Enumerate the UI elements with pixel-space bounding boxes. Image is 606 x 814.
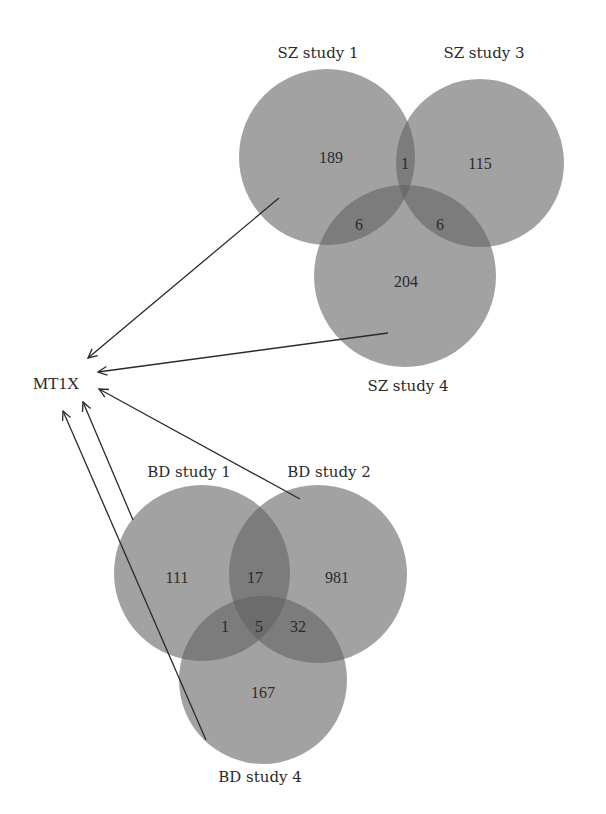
gene-label: MT1X: [33, 374, 79, 393]
region-value: 6: [355, 216, 363, 233]
region-value: 167: [251, 684, 275, 701]
arrow-sz-study-4-to-gene: [98, 333, 388, 375]
set-label-bd-study-2: BD study 2: [287, 463, 371, 481]
region-value: 981: [325, 569, 349, 586]
arrow-bd-study-1-to-gene: [83, 402, 133, 520]
venn-diagram: 189115204166111981167171325 SZ study 1SZ…: [0, 0, 606, 814]
set-label-bd-study-1: BD study 1: [147, 463, 231, 481]
region-value: 5: [255, 618, 263, 635]
set-label-sz-study-1: SZ study 1: [277, 44, 358, 62]
set-label-sz-study-3: SZ study 3: [443, 44, 524, 62]
arrow-sz-study-1-to-gene: [88, 198, 279, 358]
region-value: 1: [221, 618, 229, 635]
region-value: 17: [247, 569, 263, 586]
region-value: 204: [394, 273, 418, 290]
region-value: 111: [166, 569, 189, 586]
region-value: 189: [319, 149, 343, 166]
region-value: 115: [468, 155, 491, 172]
set-label-bd-study-4: BD study 4: [218, 768, 302, 786]
set-label-sz-study-4: SZ study 4: [367, 377, 448, 395]
region-value: 1: [401, 155, 409, 172]
region-value: 32: [290, 618, 306, 635]
arrow-bd-study-2-to-gene: [99, 389, 300, 499]
region-value: 6: [436, 216, 444, 233]
